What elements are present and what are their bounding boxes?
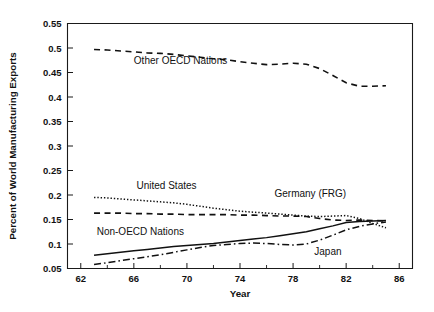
series-label-united-states: United States	[137, 180, 197, 191]
y-tick-label: 0.3	[48, 141, 61, 152]
y-tick-label: 0.4	[48, 92, 62, 103]
y-tick-label: 0.45	[43, 67, 62, 78]
x-axis-title: Year	[230, 288, 251, 299]
line-chart: 0.050.10.150.20.250.30.350.40.450.50.55 …	[0, 0, 434, 312]
x-tick-label: 86	[394, 273, 405, 284]
x-tick-label: 70	[182, 273, 193, 284]
y-tick-label: 0.25	[43, 165, 62, 176]
x-tick-label: 74	[235, 273, 246, 284]
y-tick-label: 0.5	[48, 43, 62, 54]
y-tick-label: 0.35	[43, 116, 62, 127]
y-axis-title: Percent of World Manufacturing Exports	[7, 52, 18, 240]
x-tick-label: 66	[129, 273, 140, 284]
y-tick-label: 0.2	[48, 190, 61, 201]
chart-background	[0, 0, 434, 312]
x-tick-label: 62	[75, 273, 86, 284]
y-tick-label: 0.1	[48, 239, 62, 250]
y-tick-label: 0.15	[43, 214, 62, 225]
y-tick-label: 0.05	[43, 263, 62, 274]
series-label-germany-frg: Germany (FRG)	[275, 188, 347, 199]
series-label-japan: Japan	[314, 246, 341, 257]
x-tick-label: 82	[341, 273, 352, 284]
series-label-non-oecd-nations: Non-OECD Nations	[97, 226, 184, 237]
chart-figure: 0.050.10.150.20.250.30.350.40.450.50.55 …	[0, 0, 434, 312]
x-tick-label: 78	[288, 273, 299, 284]
y-tick-label: 0.55	[43, 18, 62, 29]
series-label-other-oecd-nations: Other OECD Nations	[134, 55, 227, 66]
